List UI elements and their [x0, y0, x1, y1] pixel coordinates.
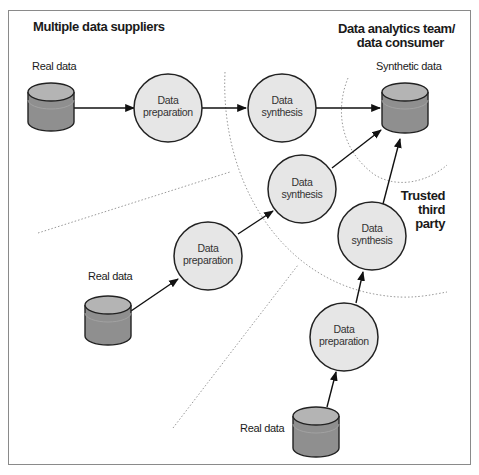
database-icon-real-top	[28, 83, 74, 131]
database-icon-real-mid	[85, 296, 131, 345]
svg-text:synthesis: synthesis	[281, 188, 322, 200]
arrow-real-to-prep-mid	[131, 279, 178, 311]
node-prep-bottom: Data preparation	[310, 303, 378, 371]
svg-text:Data: Data	[334, 323, 355, 335]
svg-text:preparation: preparation	[143, 106, 193, 118]
database-icon-real-bottom	[293, 407, 339, 457]
svg-text:Data: Data	[198, 242, 219, 254]
arrow-real-to-prep-bottom	[327, 372, 336, 407]
svg-text:Data: Data	[272, 94, 293, 106]
svg-text:synthesis: synthesis	[351, 234, 392, 246]
svg-text:synthesis: synthesis	[261, 106, 302, 118]
arrow-prep-bottom-to-synth-right	[356, 272, 363, 303]
svg-text:preparation: preparation	[319, 335, 369, 347]
title-consumer-line1: Data analytics team/	[338, 21, 456, 36]
node-prep-top: Data preparation	[134, 74, 202, 142]
supplier-divider-lower	[173, 265, 298, 428]
title-suppliers: Multiple data suppliers	[33, 19, 165, 34]
node-prep-mid: Data preparation	[174, 222, 242, 290]
svg-text:preparation: preparation	[183, 254, 233, 266]
diagram-canvas: Multiple data suppliers Data analytics t…	[0, 0, 479, 475]
real-data-label-mid: Real data	[88, 270, 134, 282]
real-data-label-top: Real data	[32, 60, 78, 72]
real-data-label-bottom: Real data	[240, 422, 286, 434]
node-synth-right: Data synthesis	[338, 202, 406, 270]
database-icon-synthetic	[382, 83, 428, 133]
arrow-synth-right-to-consumer	[383, 139, 400, 204]
node-synth-top: Data synthesis	[248, 74, 316, 142]
trusted-label-line3: party	[415, 216, 446, 231]
svg-text:Data: Data	[158, 94, 179, 106]
svg-text:Data: Data	[292, 176, 313, 188]
title-consumer-line2: data consumer	[357, 35, 445, 50]
trusted-label-line1: Trusted	[401, 188, 446, 203]
arrow-prep-mid-to-synth-mid	[238, 211, 273, 234]
trusted-label-line2: third	[418, 202, 445, 217]
arrow-synth-mid-to-consumer	[332, 130, 381, 168]
node-synth-mid: Data synthesis	[268, 155, 336, 223]
synthetic-data-label: Synthetic data	[376, 60, 443, 72]
svg-text:Data: Data	[362, 222, 383, 234]
